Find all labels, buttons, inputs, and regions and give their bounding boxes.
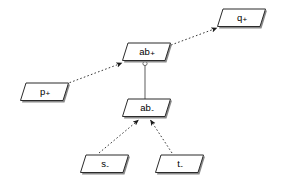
parallelogram-shape xyxy=(123,99,171,117)
edge-s-to-ab-minus xyxy=(99,120,139,153)
edge-t-to-ab-minus xyxy=(151,120,173,153)
parallelogram-shape xyxy=(156,155,204,173)
node-p-plus[interactable]: p+ xyxy=(20,82,70,101)
parallelogram-shape xyxy=(21,83,69,101)
node-q-plus[interactable]: q+ xyxy=(217,8,267,27)
edge-p-to-ab-plus xyxy=(66,63,122,84)
parallelogram-shape xyxy=(81,155,129,173)
node-s-minus[interactable]: s- xyxy=(80,154,130,173)
diagram-canvas: q+ ab+ p+ ab- xyxy=(0,0,281,185)
parallelogram-shape xyxy=(218,9,266,27)
node-ab-plus[interactable]: ab+ xyxy=(122,42,172,61)
node-ab-minus[interactable]: ab- xyxy=(122,98,172,117)
parallelogram-shape xyxy=(123,43,171,61)
edge-ab-plus-to-q xyxy=(171,28,217,45)
node-t-minus[interactable]: t- xyxy=(155,154,205,173)
